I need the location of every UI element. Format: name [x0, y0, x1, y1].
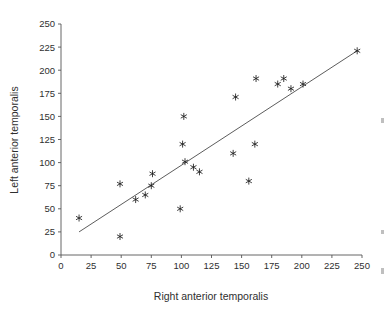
- y-tick-label: 100: [39, 157, 55, 168]
- y-tick-label: 175: [39, 88, 55, 99]
- x-tick-label: 125: [204, 260, 220, 271]
- scatter-plot-figure: 0255075100125150175200225250 02550751001…: [0, 0, 386, 319]
- x-tick-label: 0: [58, 260, 63, 271]
- x-tick-label: 250: [354, 260, 370, 271]
- y-tick-label: 225: [39, 42, 55, 53]
- x-axis-title: Right anterior temporalis: [154, 290, 268, 302]
- y-tick-label: 25: [44, 226, 55, 237]
- y-tick-label: 150: [39, 111, 55, 122]
- y-tick-label: 200: [39, 65, 55, 76]
- x-tick-label: 175: [264, 260, 280, 271]
- x-tick-label: 150: [234, 260, 250, 271]
- x-tick-label: 50: [116, 260, 127, 271]
- y-axis-title: Left anterior temporalis: [8, 86, 20, 193]
- x-tick-label: 225: [324, 260, 340, 271]
- x-tick-label: 25: [86, 260, 97, 271]
- y-tick-label: 250: [39, 18, 55, 29]
- chart-canvas: 0255075100125150175200225250 02550751001…: [0, 0, 386, 319]
- x-tick-label: 75: [146, 260, 157, 271]
- x-tick-label: 100: [173, 260, 189, 271]
- y-tick-label: 75: [44, 180, 55, 191]
- y-tick-label: 0: [50, 249, 55, 260]
- chart-background: [0, 0, 386, 319]
- y-tick-label: 50: [44, 203, 55, 214]
- y-tick-label: 125: [39, 134, 55, 145]
- x-tick-label: 200: [294, 260, 310, 271]
